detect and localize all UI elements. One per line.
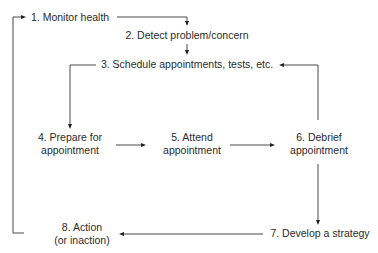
node-label: 3. Schedule appointments, tests, etc. xyxy=(98,58,276,71)
node-label: 2. Detect problem/concern xyxy=(122,29,252,42)
edge-n6-to-n3 xyxy=(279,63,318,120)
node-label-line-1: 8. Action xyxy=(42,221,122,234)
arrowhead-icon xyxy=(316,220,320,225)
arrowhead-icon xyxy=(21,15,26,19)
edge-n1-to-n2 xyxy=(117,17,189,26)
arrowhead-icon xyxy=(68,124,72,129)
arrowhead-icon xyxy=(185,50,189,55)
node-develop-strategy: 7. Develop a strategy xyxy=(268,227,372,240)
node-label-line-1: 5. Attend xyxy=(152,131,232,144)
node-label-line-2: appointment xyxy=(152,144,232,157)
node-debrief-appointment: 6. Debrief appointment xyxy=(279,131,359,157)
node-label-line-2: appointment xyxy=(279,144,359,157)
health-care-cycle-diagram: 1. Monitor health 2. Detect problem/conc… xyxy=(0,0,378,253)
arrowhead-icon xyxy=(185,21,189,26)
arrowhead-icon xyxy=(279,63,284,67)
node-label: 1. Monitor health xyxy=(31,11,109,24)
node-action-or-inaction: 8. Action (or inaction) xyxy=(42,221,122,247)
node-detect-problem: 2. Detect problem/concern xyxy=(122,29,252,42)
node-label-line-2: (or inaction) xyxy=(42,234,122,247)
edge-n5-to-n6 xyxy=(230,143,275,147)
node-label: 7. Develop a strategy xyxy=(268,227,372,240)
edge-n6-to-n7 xyxy=(316,164,320,225)
node-attend-appointment: 5. Attend appointment xyxy=(152,131,232,157)
node-label-line-1: 6. Debrief xyxy=(279,131,359,144)
node-label-line-2: appointment xyxy=(30,144,110,157)
edge-n3-to-n4 xyxy=(68,65,96,129)
node-schedule-appointments: 3. Schedule appointments, tests, etc. xyxy=(98,58,276,71)
arrowhead-icon xyxy=(141,143,146,147)
edge-n2-to-n3 xyxy=(185,44,189,55)
edge-n8-to-n1 xyxy=(13,15,26,233)
arrowhead-icon xyxy=(270,143,275,147)
node-monitor-health: 1. Monitor health xyxy=(31,11,109,24)
edge-n4-to-n5 xyxy=(116,143,146,147)
node-label-line-1: 4. Prepare for xyxy=(30,131,110,144)
edge-n7-to-n8 xyxy=(119,232,263,236)
node-prepare-for-appointment: 4. Prepare for appointment xyxy=(30,131,110,157)
